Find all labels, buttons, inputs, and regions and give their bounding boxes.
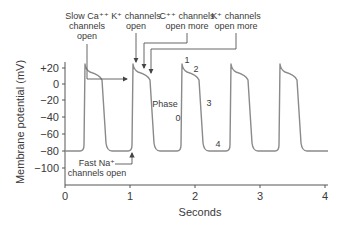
y-tick-label: −40 — [40, 111, 59, 123]
x-axis — [65, 185, 328, 188]
x-axis-label: Seconds — [179, 206, 222, 218]
svg-text:open more: open more — [165, 21, 208, 31]
y-axis-label: Membrane potential (mV) — [14, 60, 26, 184]
svg-text:C⁺⁺ channels: C⁺⁺ channels — [159, 11, 215, 21]
phase-4-label: 4 — [215, 139, 220, 149]
x-tick-label: 2 — [192, 190, 198, 202]
svg-text:Slow Ca⁺⁺: Slow Ca⁺⁺ — [65, 11, 109, 21]
svg-text:K⁺ channels: K⁺ channels — [211, 11, 261, 21]
svg-text:Fast Na⁺: Fast Na⁺ — [79, 158, 116, 168]
x-tick-label: 4 — [322, 190, 328, 202]
svg-text:channels: channels — [69, 21, 106, 31]
phase-1-label: 1 — [184, 55, 189, 65]
y-axis — [62, 62, 65, 185]
phase-label: Phase — [152, 99, 178, 109]
x-tick-label: 3 — [257, 190, 263, 202]
svg-text:open more: open more — [214, 21, 257, 31]
x-tick-labels: 0 1 2 3 4 — [62, 190, 328, 202]
phase-0-label: 0 — [175, 113, 180, 123]
svg-text:K⁺ channels: K⁺ channels — [111, 11, 161, 21]
y-tick-label: +20 — [40, 62, 59, 74]
y-tick-label: −100 — [34, 162, 59, 174]
x-tick-label: 1 — [127, 190, 133, 202]
phase-2-label: 2 — [193, 64, 198, 74]
action-potential-trace — [65, 64, 328, 151]
phase-3-label: 3 — [206, 98, 211, 108]
y-tick-labels: +20 0 −20 −40 −60 −80 −100 — [34, 62, 59, 174]
action-potential-chart: Membrane potential (mV) +20 0 −20 −40 −6… — [0, 0, 348, 228]
svg-text:channels open: channels open — [68, 168, 127, 178]
y-tick-label: −20 — [40, 94, 59, 106]
annotation-fast-na: Fast Na⁺ channels open — [68, 153, 132, 178]
annotation-slow-ca: Slow Ca⁺⁺ channels open — [65, 11, 127, 79]
phase-labels: Phase 0 1 2 3 4 — [152, 55, 220, 149]
y-tick-label: 0 — [53, 78, 59, 90]
x-tick-label: 0 — [62, 190, 68, 202]
annotation-k-open: K⁺ channels open — [111, 11, 161, 62]
svg-text:open: open — [126, 21, 146, 31]
y-tick-label: −80 — [40, 145, 59, 157]
svg-text:open: open — [77, 31, 97, 41]
y-tick-label: −60 — [40, 128, 59, 140]
